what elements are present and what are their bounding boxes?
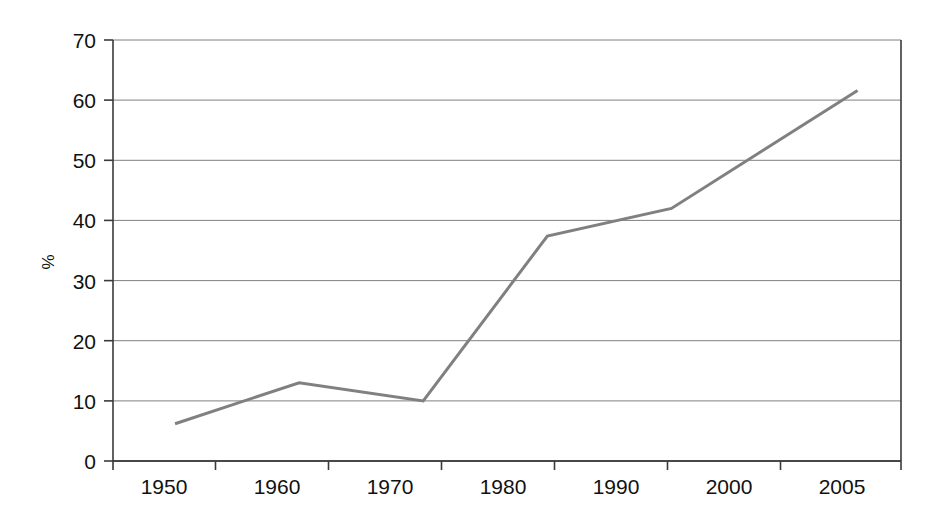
x-tick-label-group: 1950 1960 1970 1980 1990 2000 2005 xyxy=(141,475,866,498)
y-tick-label-50: 50 xyxy=(73,149,96,172)
line-chart: 70 60 50 40 30 20 10 0 % 1950 1960 1970 xyxy=(0,0,942,531)
y-tick-label-0: 0 xyxy=(84,450,96,473)
chart-figure: 70 60 50 40 30 20 10 0 % 1950 1960 1970 xyxy=(0,0,942,531)
y-tick-label-60: 60 xyxy=(73,89,96,112)
y-tick-marks xyxy=(104,40,113,461)
y-tick-label-70: 70 xyxy=(73,29,96,52)
y-tick-label-20: 20 xyxy=(73,330,96,353)
y-tick-label-group: 70 60 50 40 30 20 10 0 xyxy=(73,29,96,473)
x-tick-label-2005: 2005 xyxy=(819,475,866,498)
x-tick-label-1980: 1980 xyxy=(480,475,527,498)
y-tick-label-10: 10 xyxy=(73,390,96,413)
x-tick-label-1950: 1950 xyxy=(141,475,188,498)
plot-background xyxy=(113,40,901,461)
x-tick-label-1970: 1970 xyxy=(367,475,414,498)
y-tick-label-30: 30 xyxy=(73,270,96,293)
x-tick-label-1990: 1990 xyxy=(593,475,640,498)
y-axis-title: % xyxy=(39,254,58,269)
y-tick-label-40: 40 xyxy=(73,209,96,232)
x-tick-label-2000: 2000 xyxy=(706,475,753,498)
x-tick-label-1960: 1960 xyxy=(254,475,301,498)
x-tick-marks xyxy=(113,461,901,470)
